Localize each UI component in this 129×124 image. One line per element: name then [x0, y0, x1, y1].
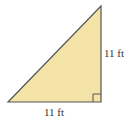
right-triangle-diagram: 11 ft 11 ft [0, 0, 129, 124]
horizontal-side-label: 11 ft [44, 106, 64, 118]
vertical-side-label: 11 ft [104, 47, 124, 59]
triangle [8, 6, 101, 102]
